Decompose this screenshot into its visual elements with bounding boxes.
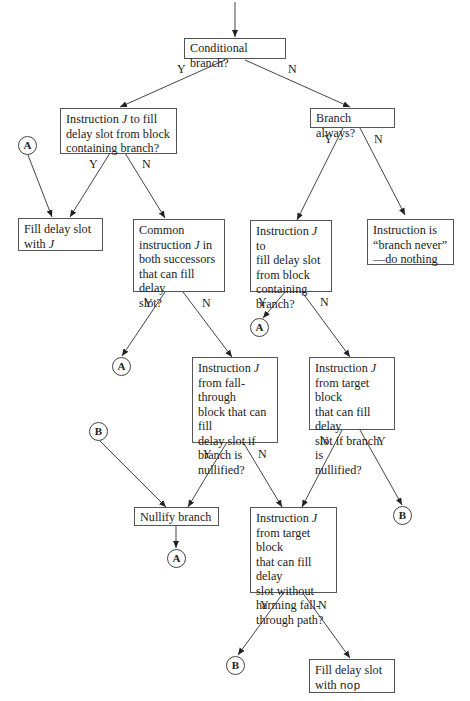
connector-b-bottom: B bbox=[226, 656, 245, 675]
node-branch-never: Instruction is “branch never” —do nothin… bbox=[367, 219, 454, 265]
connector-b-left: B bbox=[89, 422, 108, 441]
node-instruction-j-from-block: Instruction J to fill delay slot from bl… bbox=[60, 108, 177, 154]
label-instrj2-no: N bbox=[320, 295, 329, 310]
node-nullify-branch: Nullify branch bbox=[134, 507, 219, 526]
label-noharm-no: N bbox=[318, 598, 327, 613]
node-conditional-branch: Conditional branch? bbox=[184, 38, 286, 59]
node-fill-delay-slot-nop: Fill delay slot with nop bbox=[309, 659, 395, 693]
edge-a-to-fill bbox=[28, 155, 52, 217]
connector-a-common: A bbox=[112, 357, 131, 376]
node-common-instruction: Common instruction J in both successors … bbox=[133, 219, 225, 292]
edge-always-yes bbox=[297, 128, 343, 220]
connector-a-nullify: A bbox=[167, 549, 186, 568]
node-fill-delay-slot-with-j: Fill delay slot with J bbox=[18, 218, 103, 251]
node-target-nullified: Instruction J from target block that can… bbox=[309, 357, 395, 430]
label-fallthrough-no: N bbox=[258, 447, 267, 462]
label-always-yes: Y bbox=[324, 132, 333, 147]
node-instruction-j-from-block-2: Instruction J to fill delay slot from bl… bbox=[250, 220, 332, 292]
label-instrj-no: N bbox=[142, 157, 151, 172]
label-instrj2-yes: Y bbox=[258, 295, 267, 310]
connector-a-branch: A bbox=[250, 318, 269, 337]
node-target-without-harm: Instruction J from target block that can… bbox=[250, 507, 337, 593]
label-instrj-yes: Y bbox=[89, 157, 98, 172]
connector-a-left: A bbox=[18, 136, 37, 155]
nop-code: nop bbox=[340, 679, 361, 692]
node-fall-through-nullified: Instruction J from fall-through block th… bbox=[192, 357, 278, 443]
flowchart-edges bbox=[0, 0, 470, 701]
connector-b-right: B bbox=[393, 506, 412, 525]
label-cond-yes: Y bbox=[177, 62, 186, 77]
label-fallthrough-yes: Y bbox=[203, 447, 212, 462]
label-target-yes: Y bbox=[377, 434, 386, 449]
label-target-no: N bbox=[320, 434, 329, 449]
edge-b-to-nullify bbox=[99, 440, 166, 507]
label-common-no: N bbox=[202, 296, 211, 311]
label-always-no: N bbox=[374, 132, 383, 147]
label-cond-no: N bbox=[288, 62, 297, 77]
label-common-yes: Y bbox=[144, 296, 153, 311]
edge-cond-no bbox=[245, 60, 350, 107]
label-noharm-yes: Y bbox=[260, 598, 269, 613]
node-branch-always: Branch always? bbox=[310, 108, 395, 128]
